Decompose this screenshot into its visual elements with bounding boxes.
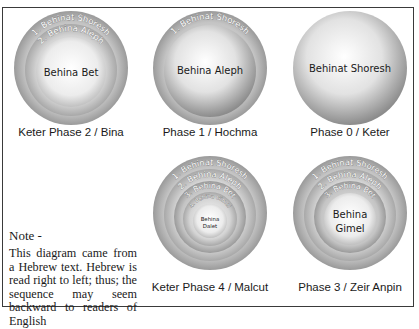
note-body: This diagram came from a Hebrew text. He… [9, 247, 137, 329]
caption-keter-phase-4: Keter Phase 4 / Malcut [152, 281, 268, 293]
center-label: Behina Aleph [177, 65, 243, 76]
center-label-line-1: Behina [201, 216, 220, 222]
diagram-keter-phase-2: 1. Behinat Shoresh 2. Behina Aleph Behin… [11, 10, 131, 126]
caption-phase-0: Phase 0 / Keter [310, 126, 389, 138]
center-label-line-1: Behina [333, 209, 368, 220]
caption-phase-3: Phase 3 / Zeir Anpin [298, 281, 402, 293]
caption-keter-phase-2: Keter Phase 2 / Bina [18, 126, 123, 138]
caption-phase-1: Phase 1 / Hochma [163, 126, 258, 138]
center-label-line-2: Gimel [335, 223, 364, 234]
note-title: Note - [9, 228, 42, 244]
center-label-line-2: Dalet [203, 223, 217, 229]
diagram-keter-phase-4: 1. Behinat Shoresh 2. Behina Aleph 3. Be… [150, 155, 270, 271]
center-label: Behinat Shoresh [309, 63, 391, 74]
diagram-phase-3: 1. Behinat Shoresh 2. Behina Aleph 3. Be… [290, 155, 410, 271]
diagram-phase-0: Behinat Shoresh [290, 10, 410, 126]
center-label: Behina Bet [44, 67, 99, 78]
diagram-phase-1: 1. Behinat Shoresh Behina Aleph [150, 10, 270, 126]
